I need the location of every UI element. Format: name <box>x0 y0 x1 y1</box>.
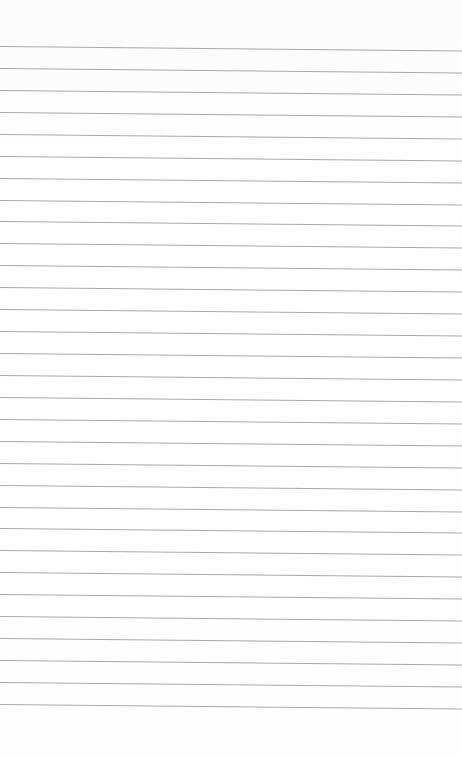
ruled-line <box>0 287 462 292</box>
ruled-line <box>0 550 462 555</box>
ruled-line <box>0 90 462 95</box>
ruled-line <box>0 682 462 687</box>
ruled-line <box>0 572 462 577</box>
ruled-line <box>0 221 462 226</box>
ruled-line <box>0 200 462 205</box>
ruled-line <box>0 704 462 709</box>
ruled-line <box>0 419 462 424</box>
ruled-line <box>0 112 462 117</box>
ruled-line <box>0 309 462 314</box>
ruled-line <box>0 528 462 533</box>
ruled-line <box>0 178 462 183</box>
ruled-line <box>0 660 462 665</box>
ruled-line <box>0 265 462 270</box>
ruled-line <box>0 353 462 358</box>
ruled-line <box>0 331 462 336</box>
ruled-line <box>0 638 462 643</box>
ruled-line <box>0 463 462 468</box>
ruled-line <box>0 507 462 512</box>
ruled-line <box>0 616 462 621</box>
ruled-line <box>0 485 462 490</box>
ruled-line <box>0 243 462 248</box>
ruled-line <box>0 156 462 161</box>
ruled-line <box>0 594 462 599</box>
ruled-line <box>0 134 462 139</box>
ruled-line <box>0 397 462 402</box>
ruled-line <box>0 375 462 380</box>
ruled-line <box>0 46 462 51</box>
ruled-line <box>0 68 462 73</box>
ruled-line <box>0 441 462 446</box>
